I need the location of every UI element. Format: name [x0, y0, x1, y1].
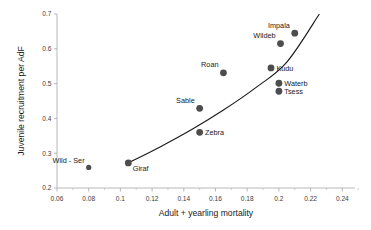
- y-tick-label: 0.2: [42, 184, 51, 191]
- data-points-group: Wild - SerGirafZebraSableRoanTsessWaterb…: [53, 21, 308, 174]
- data-point-marker[interactable]: [291, 30, 298, 37]
- data-point-marker[interactable]: [277, 40, 284, 47]
- data-point-label: Tsess: [284, 87, 303, 96]
- data-point-marker[interactable]: [196, 129, 203, 136]
- x-tick-label: 0.08: [82, 195, 95, 202]
- x-tick-label: 0.14: [177, 195, 190, 202]
- y-tick-label: 0.6: [42, 45, 51, 52]
- x-tick-label: 0.06: [51, 195, 64, 202]
- plot-area: 0.20.30.40.50.60.70.060.080.10.120.140.1…: [0, 0, 371, 230]
- scatter-chart: 0.20.30.40.50.60.70.060.080.10.120.140.1…: [0, 0, 371, 230]
- x-tick-label: 0.16: [209, 195, 222, 202]
- y-axis-title: Juvenile recruitment per AdF: [16, 46, 26, 155]
- data-point-label: Waterb: [284, 79, 307, 88]
- data-point-label: Giraf: [133, 164, 150, 173]
- x-tick-label: 0.12: [146, 195, 159, 202]
- data-point-marker[interactable]: [86, 165, 91, 170]
- x-tick-label: 0.22: [304, 195, 317, 202]
- x-tick-label: 0.2: [274, 195, 283, 202]
- x-axis-title: Adult + yearling mortality: [159, 208, 254, 218]
- data-point-label: Impala: [268, 21, 291, 30]
- x-tick-label: 0.24: [336, 195, 349, 202]
- y-tick-label: 0.4: [42, 115, 51, 122]
- data-point-label: Wildeb: [253, 31, 275, 40]
- data-point-label: Roan: [201, 60, 218, 69]
- y-tick-label: 0.3: [42, 150, 51, 157]
- data-point-label: Sable: [176, 96, 195, 105]
- x-tick-label: 0.1: [116, 195, 125, 202]
- x-tick-label: 0.18: [241, 195, 254, 202]
- y-tick-label: 0.5: [42, 80, 51, 87]
- data-point-label: Wild - Ser: [53, 156, 86, 165]
- data-point-marker[interactable]: [268, 65, 275, 72]
- data-point-marker[interactable]: [220, 69, 227, 76]
- data-point-marker[interactable]: [196, 105, 203, 112]
- data-point-marker[interactable]: [276, 80, 283, 87]
- data-point-label: Kudu: [276, 64, 293, 73]
- y-tick-label: 0.7: [42, 10, 51, 17]
- data-point-marker[interactable]: [125, 160, 132, 167]
- data-point-marker[interactable]: [276, 88, 283, 95]
- data-point-label: Zebra: [205, 128, 225, 137]
